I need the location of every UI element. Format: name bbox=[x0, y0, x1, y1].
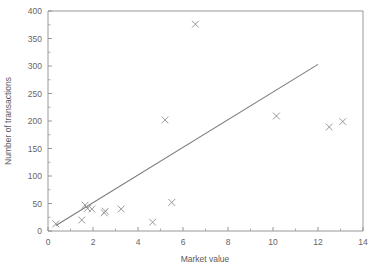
regression-line bbox=[56, 64, 318, 225]
x-axis-title: Market value bbox=[181, 254, 230, 264]
data-point-marker bbox=[326, 124, 333, 131]
x-tick-label: 4 bbox=[136, 237, 141, 247]
x-axis-tick-labels: 02468101214 bbox=[46, 237, 368, 247]
y-tick-label: 0 bbox=[37, 226, 42, 236]
y-tick-label: 300 bbox=[28, 61, 42, 71]
y-tick-label: 250 bbox=[28, 89, 42, 99]
y-axis-tick-labels: 050100150200250300350400 bbox=[28, 6, 42, 236]
x-tick-label: 0 bbox=[46, 237, 51, 247]
y-tick-label: 50 bbox=[33, 199, 43, 209]
x-tick-label: 8 bbox=[226, 237, 231, 247]
data-point-marker bbox=[78, 217, 85, 224]
data-point-marker bbox=[162, 117, 169, 124]
data-points bbox=[52, 21, 346, 227]
y-axis-title: Number of transactions bbox=[3, 77, 13, 165]
data-point-marker bbox=[168, 199, 175, 206]
y-tick-label: 350 bbox=[28, 34, 42, 44]
plot-area: 02468101214 050100150200250300350400 Mar… bbox=[0, 0, 377, 269]
x-tick-label: 10 bbox=[268, 237, 278, 247]
y-tick-label: 150 bbox=[28, 144, 42, 154]
scatter-chart: 02468101214 050100150200250300350400 Mar… bbox=[0, 0, 377, 269]
data-point-marker bbox=[88, 206, 95, 213]
y-tick-label: 200 bbox=[28, 116, 42, 126]
data-point-marker bbox=[192, 21, 199, 28]
y-tick-label: 400 bbox=[28, 6, 42, 16]
data-point-marker bbox=[149, 219, 156, 226]
y-axis-ticks bbox=[48, 11, 52, 231]
y-tick-label: 100 bbox=[28, 171, 42, 181]
data-point-marker bbox=[339, 118, 346, 125]
data-point-marker bbox=[118, 206, 125, 213]
x-axis-ticks bbox=[48, 227, 363, 231]
x-tick-label: 14 bbox=[358, 237, 368, 247]
fit-line-segment bbox=[56, 64, 318, 225]
x-tick-label: 2 bbox=[91, 237, 96, 247]
axes bbox=[48, 11, 363, 231]
x-tick-label: 6 bbox=[181, 237, 186, 247]
x-tick-label: 12 bbox=[313, 237, 323, 247]
data-point-marker bbox=[273, 113, 280, 120]
